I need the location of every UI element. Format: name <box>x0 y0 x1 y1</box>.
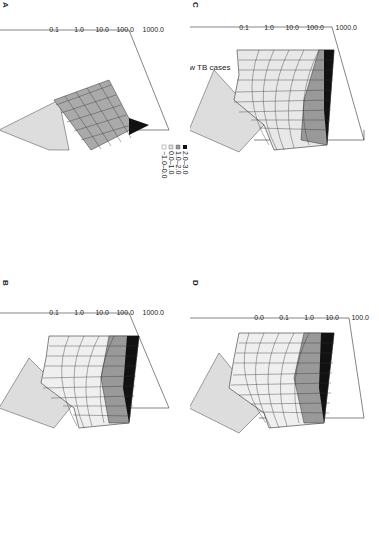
svg-text:1.0: 1.0 <box>304 314 314 321</box>
panel-c: C 1000.0 100.0 10.0 1.0 <box>190 0 379 277</box>
panel-label: B <box>1 280 10 286</box>
svg-text:100.0: 100.0 <box>306 24 324 31</box>
svg-text:0.1: 0.1 <box>49 26 59 33</box>
panel-label: A <box>1 2 10 8</box>
svg-text:1000.0: 1000.0 <box>336 24 358 31</box>
panel-b: B 1000.0 100.0 10.0 1.0 0.1 <box>0 278 189 555</box>
svg-text:1000.0: 1000.0 <box>143 26 165 33</box>
svg-text:New TB cases: New TB cases <box>190 63 230 72</box>
svg-text:0.1: 0.1 <box>49 309 59 316</box>
svg-text:100.0: 100.0 <box>116 26 134 33</box>
svg-text:0.0: 0.0 <box>254 314 264 321</box>
svg-text:10.0: 10.0 <box>95 26 109 33</box>
z-axis-ticks: 100.0 10.0 1.0 0.1 0.0 <box>254 314 369 321</box>
panel-a: A 1000.0 100.0 10.0 1.0 0.1 <box>0 0 189 277</box>
svg-text:0.0–1.0: 0.0–1.0 <box>168 151 175 174</box>
svg-text:0.1: 0.1 <box>239 24 249 31</box>
svg-text:10.0: 10.0 <box>95 309 109 316</box>
panel-d: D 100.0 10.0 1.0 0.1 0.0 <box>190 278 379 555</box>
legend: 2.0–3.0 1.0–2.0 0.0–1.0 −1.0–0.0 <box>161 145 189 179</box>
svg-text:2.0–3.0: 2.0–3.0 <box>182 151 189 174</box>
svg-text:0.1: 0.1 <box>279 314 289 321</box>
svg-text:1.0–2.0: 1.0–2.0 <box>175 151 182 174</box>
panel-label: C <box>191 2 200 8</box>
svg-text:100.0: 100.0 <box>116 309 134 316</box>
svg-text:1000.0: 1000.0 <box>143 309 165 316</box>
svg-text:1.0: 1.0 <box>74 26 84 33</box>
z-axis-ticks: 1000.0 100.0 10.0 1.0 0.1 <box>49 26 164 33</box>
z-axis-label: New TB cases <box>190 63 230 72</box>
svg-text:1.0: 1.0 <box>264 24 274 31</box>
panel-label: D <box>191 280 200 286</box>
svg-text:100.0: 100.0 <box>351 314 369 321</box>
z-axis-ticks: 1000.0 100.0 10.0 1.0 0.1 <box>239 24 357 31</box>
svg-text:10.0: 10.0 <box>325 314 339 321</box>
svg-text:1.0: 1.0 <box>74 309 84 316</box>
figure: C 1000.0 100.0 10.0 1.0 <box>0 0 379 555</box>
svg-text:−1.0–0.0: −1.0–0.0 <box>161 151 168 179</box>
svg-text:10.0: 10.0 <box>285 24 299 31</box>
z-axis-ticks: 1000.0 100.0 10.0 1.0 0.1 <box>49 309 164 316</box>
